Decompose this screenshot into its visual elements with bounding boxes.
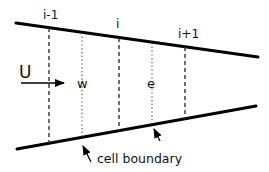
label-i: i	[116, 17, 119, 31]
label-e: e	[147, 76, 155, 91]
label-velocity-u: U	[19, 62, 31, 82]
top-wall-line	[16, 23, 258, 57]
label-i-minus-1: i-1	[43, 8, 58, 22]
pointer-arrow-icon	[154, 129, 160, 141]
label-w: w	[77, 76, 88, 91]
pointer-arrow-icon	[83, 146, 91, 162]
duct-cell-diagram: i-1 i i+1 U w e cell boundary	[0, 0, 269, 172]
bottom-wall-line	[17, 106, 256, 149]
label-cell-boundary: cell boundary	[97, 151, 183, 166]
label-i-plus-1: i+1	[178, 27, 199, 41]
